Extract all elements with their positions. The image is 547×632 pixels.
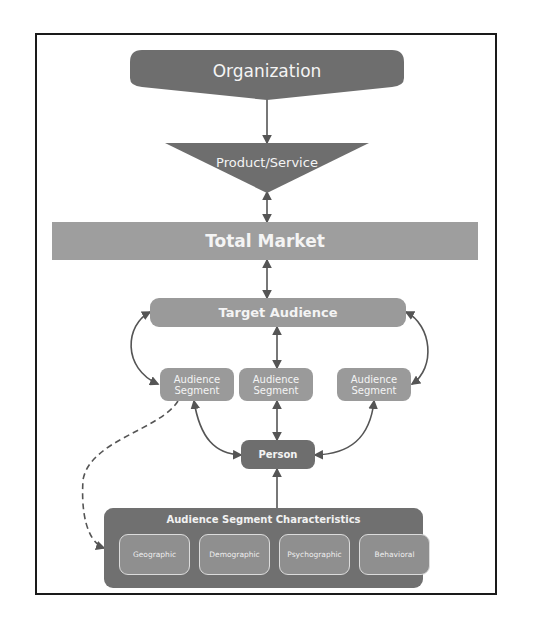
characteristic-geographic: Geographic [119,534,190,575]
target-audience-node: Target Audience [150,298,406,327]
audience-segment-node: AudienceSegment [337,368,411,401]
total-market-label: Total Market [205,231,325,251]
segment-label-line2: Segment [253,385,298,396]
segment-label-line1: Audience [253,374,299,385]
segment-label-line1: Audience [174,374,220,385]
segment-label-line2: Segment [351,385,396,396]
audience-segment-node: AudienceSegment [239,368,313,401]
person-label: Person [259,449,298,460]
person-node: Person [241,440,315,469]
total-market-band: Total Market [52,222,478,260]
segment-label-line2: Segment [174,385,219,396]
segment-characteristics-panel: Audience Segment Characteristics Geograp… [104,508,423,588]
segment-label-line1: Audience [351,374,397,385]
product-service-label: Product/Service [216,155,318,170]
organization-label: Organization [213,61,322,81]
characteristics-title: Audience Segment Characteristics [104,514,423,525]
target-audience-label: Target Audience [219,305,338,320]
organization-node: Organization [130,50,404,100]
characteristic-behavioral: Behavioral [359,534,430,575]
characteristic-demographic: Demographic [199,534,270,575]
audience-segment-node: AudienceSegment [160,368,234,401]
product-service-node: Product/Service [165,143,369,193]
characteristic-psychographic: Psychographic [279,534,350,575]
